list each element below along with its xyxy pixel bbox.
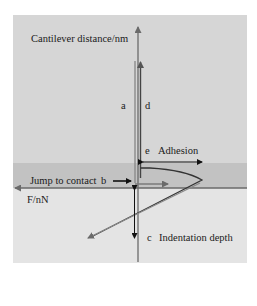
label-e: e: [145, 145, 150, 156]
adhesion-label: Adhesion: [158, 145, 199, 156]
label-c: c: [147, 232, 152, 243]
label-b: b: [101, 175, 106, 186]
label-d: d: [145, 100, 151, 111]
x-axis-label: F/nN: [27, 194, 49, 205]
indentation-depth-label: Indentation depth: [159, 232, 234, 243]
jump-to-contact-label: Jump to contact: [30, 175, 97, 186]
force-distance-diagram: Cantilever distance/nm a d e Adhesion Ju…: [0, 0, 257, 306]
label-a: a: [121, 100, 126, 111]
y-axis-label: Cantilever distance/nm: [31, 33, 128, 44]
